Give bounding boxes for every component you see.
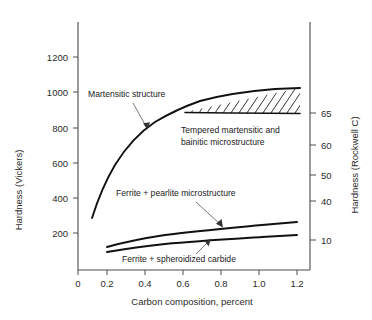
xtick-0: 0: [75, 278, 80, 289]
xtick-0.6: 0.6: [176, 278, 189, 289]
annotation-ferrite-spheroidized: Ferrite + spheroidized carbide: [122, 254, 236, 264]
ytick-600: 600: [52, 158, 68, 169]
wedge-lower-boundary: [185, 113, 300, 114]
y2tick-50: 50: [321, 170, 332, 181]
ytick-1000: 1000: [47, 87, 68, 98]
ytick-800: 800: [52, 123, 68, 134]
chart-figure: 1200 1000 800 600 400 200 0 0.2 0.4 0.6 …: [0, 0, 372, 320]
annotation-martensitic-structure: Martensitic structure: [88, 89, 166, 99]
left-axis-title: Hardness (Vickers): [13, 150, 24, 231]
y2tick-10: 10: [321, 235, 332, 246]
y2tick-40: 40: [321, 196, 332, 207]
right-axis-title: Hardness (Rockwell C): [349, 116, 360, 213]
xtick-1.2: 1.2: [290, 278, 303, 289]
y2tick-60: 60: [321, 140, 332, 151]
xtick-0.2: 0.2: [100, 278, 113, 289]
ytick-400: 400: [52, 193, 68, 204]
annotation-tempered-martensitic-line1: Tempered martensitic and: [181, 125, 280, 135]
xtick-0.8: 0.8: [214, 278, 227, 289]
hardness-vs-carbon-chart: 1200 1000 800 600 400 200 0 0.2 0.4 0.6 …: [0, 0, 372, 320]
y2tick-65: 65: [321, 108, 332, 119]
xtick-0.4: 0.4: [138, 278, 151, 289]
bottom-axis-title: Carbon composition, percent: [131, 296, 253, 307]
xtick-1.0: 1.0: [252, 278, 265, 289]
annotation-ferrite-pearlite: Ferrite + pearlite microstructure: [116, 188, 236, 198]
ytick-1200: 1200: [47, 52, 68, 63]
ytick-200: 200: [52, 228, 68, 239]
annotation-tempered-martensitic-line2: bainitic microstructure: [181, 137, 265, 147]
